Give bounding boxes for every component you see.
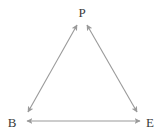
arrow-p-to-e [87, 25, 137, 112]
node-label-e: E [146, 116, 154, 129]
arrow-b-to-p [28, 25, 77, 112]
node-label-p: P [78, 6, 85, 19]
node-label-b: B [8, 116, 17, 129]
diagram-canvas [0, 0, 163, 139]
triangle-diagram: P B E [0, 0, 163, 139]
